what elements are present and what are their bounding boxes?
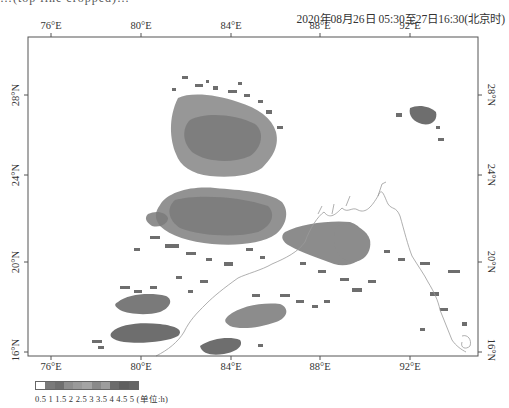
- legend-swatch: [45, 382, 54, 389]
- lat-label-24n-right: 24°N: [486, 164, 497, 187]
- precipitation-duration-map: 76°E 80°E 84°E 88°E 92°E 76°E 80°E 84°E …: [0, 0, 509, 408]
- legend-swatch: [73, 382, 82, 389]
- lon-labels-bottom: 76°E 80°E 84°E 88°E 92°E: [40, 361, 420, 372]
- legend-swatch: [101, 382, 110, 389]
- lon-label-88e-top: 88°E: [309, 20, 330, 31]
- legend: 0.5 1 1.5 2 2.5 3 3.5 4 4.5 5 (单位:h): [35, 381, 168, 404]
- legend-color-bar: [35, 381, 139, 390]
- coastline-myanmar-islands: [462, 336, 471, 348]
- lon-label-80e-bottom: 80°E: [130, 361, 151, 372]
- legend-swatch: [55, 382, 64, 389]
- legend-swatch: [64, 382, 73, 389]
- lat-label-28n-left: 28°N: [10, 83, 21, 106]
- lat-labels-right: 28°N 24°N 20°N 16°N: [486, 84, 497, 362]
- lon-label-76e-bottom: 76°E: [40, 361, 61, 372]
- legend-labels: 0.5 1 1.5 2 2.5 3 3.5 4 4.5 5 (单位:h): [35, 392, 168, 404]
- lat-label-28n-right: 28°N: [486, 84, 497, 107]
- precip-cluster-south-coast: [200, 338, 241, 355]
- lon-label-92e-top: 92°E: [399, 20, 420, 31]
- precip-cluster-northeast: [410, 106, 437, 124]
- lon-label-92e-bottom: 92°E: [399, 361, 420, 372]
- precip-cluster-southwest-1: [115, 294, 170, 314]
- precipitation-areas: [92, 76, 467, 355]
- lon-label-88e-bottom: 88°E: [309, 361, 330, 372]
- lon-label-76e-top: 76°E: [40, 20, 61, 31]
- legend-swatch: [82, 382, 91, 389]
- lon-label-84e-bottom: 84°E: [220, 361, 241, 372]
- precip-cluster-southcentral: [225, 304, 286, 329]
- legend-swatch: [92, 382, 101, 389]
- legend-swatch: [36, 382, 45, 389]
- coastline-bay-head: [305, 192, 466, 352]
- lat-label-16n-left: 16°N: [10, 338, 21, 361]
- lat-label-20n-right: 20°N: [486, 251, 497, 274]
- lat-label-16n-right: 16°N: [486, 339, 497, 362]
- legend-swatch: [119, 382, 128, 389]
- lat-label-24n-left: 24°N: [10, 163, 21, 186]
- lon-label-84e-top: 84°E: [220, 20, 241, 31]
- legend-swatch: [110, 382, 119, 389]
- precip-cluster-north-dark: [184, 115, 261, 161]
- precip-cluster-southwest-2: [111, 323, 180, 342]
- lat-labels-left: 28°N 24°N 20°N 16°N: [10, 83, 21, 361]
- lat-label-20n-left: 20°N: [10, 250, 21, 273]
- legend-swatch: [129, 382, 138, 389]
- lon-label-80e-top: 80°E: [130, 20, 151, 31]
- lon-labels-top: 76°E 80°E 84°E 88°E 92°E: [40, 20, 420, 31]
